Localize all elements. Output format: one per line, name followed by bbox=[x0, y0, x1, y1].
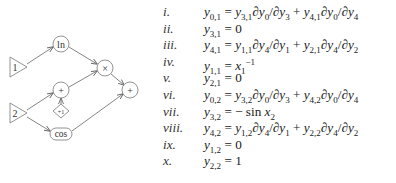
equation-label: vii. bbox=[163, 104, 204, 121]
equation-text: y1,2 = 0 bbox=[204, 137, 242, 154]
equation-row: i.y0,1 = y3,1∂y0/∂y3 + y4,1∂y0/∂y4 bbox=[163, 4, 358, 21]
equation-label: viii. bbox=[163, 120, 204, 137]
equation-text: y1,1 = x1−1 bbox=[204, 54, 255, 71]
equation-row: x.y2,2 = 1 bbox=[163, 153, 358, 170]
equation-text: y0,2 = y3,2∂y0/∂y3 + y4,2∂y0/∂y4 bbox=[204, 87, 358, 104]
edge-times-plusright bbox=[111, 74, 124, 85]
equation-text: y4,1 = y1,1∂y4/∂y1 + y2,1∂y4/∂y2 bbox=[204, 37, 358, 54]
edge-cos-plusright bbox=[72, 94, 123, 131]
equation-label: iv. bbox=[163, 54, 204, 71]
equation-row: v.y2,1 = 0 bbox=[163, 70, 358, 87]
computation-graph: 1 2 ln + +1 cos × + bbox=[0, 0, 160, 183]
equation-list: i.y0,1 = y3,1∂y0/∂y3 + y4,1∂y0/∂y4 ii.y3… bbox=[163, 4, 358, 170]
input-node-2-label: 2 bbox=[13, 108, 18, 119]
plus-node-left-label: + bbox=[58, 85, 64, 96]
equation-label: v. bbox=[163, 70, 204, 87]
edge-ln-times bbox=[69, 47, 97, 64]
equation-row: viii.y4,2 = y1,2∂y4/∂y1 + y2,2∂y4/∂y2 bbox=[163, 120, 358, 137]
equation-row: vii.y3,2 = − sin x2 bbox=[163, 104, 358, 121]
input-node-1-label: 1 bbox=[13, 62, 18, 73]
plus-node-right-label: + bbox=[127, 85, 133, 96]
times-node-label: × bbox=[102, 63, 108, 74]
cos-node-label: cos bbox=[55, 129, 68, 139]
equation-text: y3,1 = 0 bbox=[204, 21, 242, 38]
equation-label: vi. bbox=[163, 87, 204, 104]
equation-row: ix.y1,2 = 0 bbox=[163, 137, 358, 154]
equation-text: y2,1 = 0 bbox=[204, 70, 242, 87]
equation-row: iii.y4,1 = y1,1∂y4/∂y1 + y2,1∂y4/∂y2 bbox=[163, 37, 358, 54]
equation-label: ix. bbox=[163, 137, 204, 154]
equation-text: y3,2 = − sin x2 bbox=[204, 104, 275, 121]
equation-row: iv.y1,1 = x1−1 bbox=[163, 54, 358, 71]
edge-x2-cos bbox=[27, 117, 50, 131]
ln-node-label: ln bbox=[57, 39, 65, 50]
equation-label: ii. bbox=[163, 21, 204, 38]
plus-one-node-label: +1 bbox=[58, 109, 64, 115]
equation-row: vi.y0,2 = y3,2∂y0/∂y3 + y4,2∂y0/∂y4 bbox=[163, 87, 358, 104]
edge-x1-ln bbox=[27, 47, 53, 64]
equation-text: y0,1 = y3,1∂y0/∂y3 + y4,1∂y0/∂y4 bbox=[204, 4, 358, 21]
equation-text: y2,2 = 1 bbox=[204, 153, 242, 170]
equation-row: ii.y3,1 = 0 bbox=[163, 21, 358, 38]
equation-text: y4,2 = y1,2∂y4/∂y1 + y2,2∂y4/∂y2 bbox=[204, 120, 358, 137]
equation-label: i. bbox=[163, 4, 204, 21]
equation-label: x. bbox=[163, 153, 204, 170]
edge-plus-times bbox=[69, 71, 97, 87]
edge-x2-plus bbox=[27, 93, 53, 110]
equation-label: iii. bbox=[163, 37, 204, 54]
